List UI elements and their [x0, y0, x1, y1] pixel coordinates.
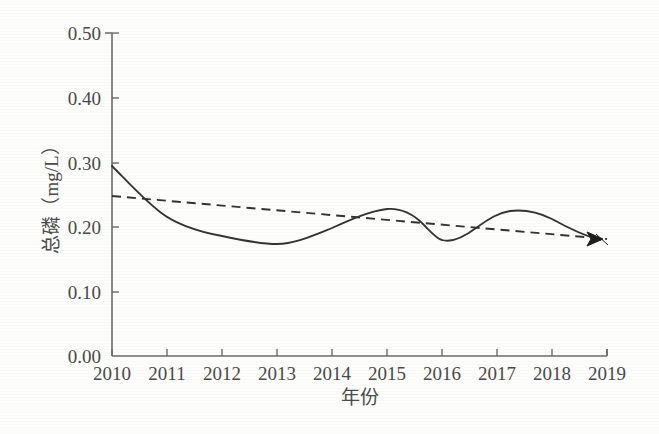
x-tick-label-2010: 2010 [93, 363, 131, 384]
x-axis-ticks [112, 349, 607, 356]
x-tick-label-2014: 2014 [313, 363, 352, 384]
trend-arrowhead-icon [587, 232, 608, 246]
x-tick-label-2013: 2013 [258, 363, 296, 384]
x-tick-label-2016: 2016 [423, 363, 461, 384]
x-tick-label-2019: 2019 [588, 363, 626, 384]
y-axis-title: 总磷（mg/L） [41, 136, 62, 253]
y-axis-ticks [112, 33, 119, 292]
y-tick-label-2: 0.30 [68, 153, 101, 174]
trend-line-series [112, 196, 607, 239]
y-tick-label-0: 0.50 [68, 23, 101, 44]
y-tick-label-1: 0.40 [68, 88, 101, 109]
total-phosphorus-line-chart: 0.50 0.40 0.30 0.20 0.10 0.00 2010 2011 … [0, 0, 659, 434]
x-tick-label-2018: 2018 [533, 363, 571, 384]
y-axis-tick-labels: 0.50 0.40 0.30 0.20 0.10 0.00 [68, 23, 101, 367]
x-tick-label-2017: 2017 [478, 363, 516, 384]
x-axis-title: 年份 [341, 387, 379, 408]
x-tick-label-2012: 2012 [203, 363, 241, 384]
x-tick-label-2015: 2015 [368, 363, 406, 384]
y-tick-label-3: 0.20 [68, 217, 101, 238]
observed-line-series [112, 166, 600, 244]
y-tick-label-4: 0.10 [68, 282, 101, 303]
chart-figure: 0.50 0.40 0.30 0.20 0.10 0.00 2010 2011 … [0, 0, 659, 434]
x-tick-label-2011: 2011 [148, 363, 185, 384]
x-axis-tick-labels: 2010 2011 2012 2013 2014 2015 2016 2017 … [93, 363, 626, 384]
